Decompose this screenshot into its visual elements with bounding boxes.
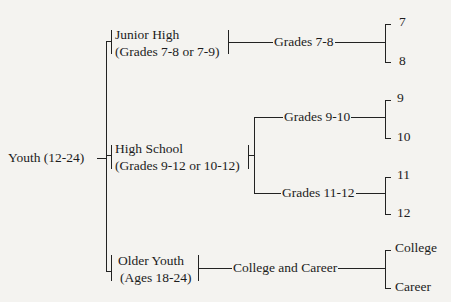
node-grades-11-12: Grades 11-12 <box>281 185 356 201</box>
main-spine <box>106 41 107 272</box>
leaf-9: 9 <box>397 90 404 106</box>
leaf-tick-8 <box>385 62 391 63</box>
leaf-7: 7 <box>399 14 406 30</box>
node-college-and-career: College and Career <box>232 260 338 276</box>
leaf-tick-college <box>385 250 391 251</box>
group-high-school-title: High School <box>115 141 183 157</box>
leaf-tick-10 <box>385 138 391 139</box>
leaf-college: College <box>395 240 437 256</box>
leaf-bracket-9-10 <box>385 100 386 138</box>
group-high-school-subtitle: (Grades 9-12 or 10-12) <box>115 158 240 174</box>
group-older-youth-title: Older Youth <box>118 253 184 269</box>
leaf-11: 11 <box>397 167 410 183</box>
leaf-bracket-7-8 <box>385 24 386 62</box>
group-junior-high-subtitle: (Grades 7-8 or 7-9) <box>115 44 220 60</box>
leaf-tick-7 <box>385 24 391 25</box>
group-junior-high-title: Junior High <box>115 27 179 43</box>
leaf-bracket-11-12 <box>385 177 386 214</box>
bracket-right-high-school <box>248 145 249 169</box>
leaf-12: 12 <box>397 205 411 221</box>
node-grades-7-8: Grades 7-8 <box>273 34 335 50</box>
leaf-tick-9 <box>385 100 391 101</box>
bracket-left-older-youth <box>111 255 112 281</box>
bracket-left-high-school <box>111 145 112 169</box>
leaf-tick-11 <box>385 177 391 178</box>
leaf-8: 8 <box>399 53 406 69</box>
split-high-school <box>254 117 255 194</box>
leaf-bracket-college-career <box>385 250 386 288</box>
node-grades-9-10: Grades 9-10 <box>283 109 351 125</box>
group-older-youth-subtitle: (Ages 18-24) <box>120 270 192 286</box>
leaf-tick-career <box>385 288 391 289</box>
bracket-left-junior-high <box>111 30 112 54</box>
leaf-10: 10 <box>397 129 411 145</box>
leaf-career: Career <box>395 279 431 295</box>
root-node-youth: Youth (12-24) <box>8 150 84 166</box>
leaf-tick-12 <box>385 214 391 215</box>
